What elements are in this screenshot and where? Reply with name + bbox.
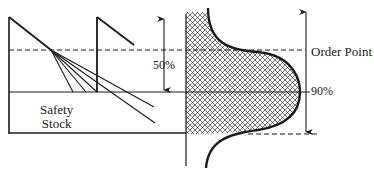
inventory-diagram: Safety Stock 50% Order Point 90% xyxy=(0,0,374,173)
sawtooth-depletion-2 xyxy=(97,17,134,45)
safety-stock-label: Safety Stock xyxy=(40,103,73,131)
fifty-percent-label: 50% xyxy=(153,59,175,71)
order-point-label: Order Point xyxy=(311,45,372,58)
sawtooth-depletion-1 xyxy=(9,17,51,50)
demand-distribution-hatch xyxy=(186,12,306,134)
safety-stock-label-line1: Safety xyxy=(40,103,73,117)
safety-stock-label-line2: Stock xyxy=(40,117,73,131)
ninety-percent-label: 90% xyxy=(311,85,333,97)
